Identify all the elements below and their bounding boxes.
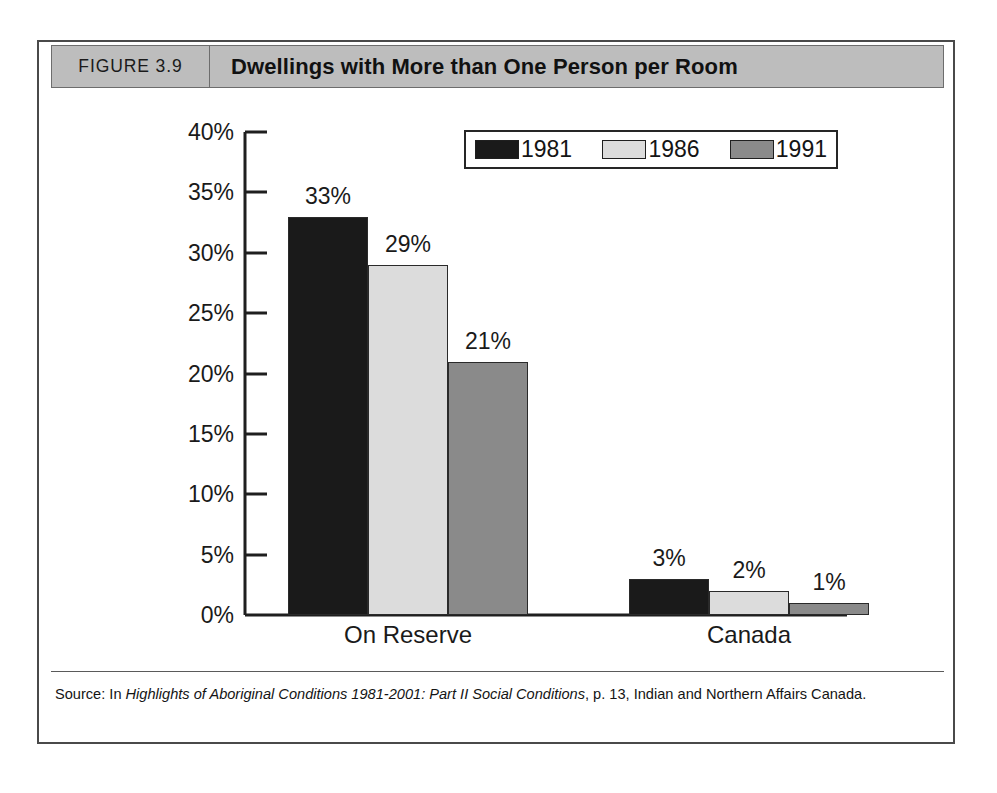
legend-swatch-1981	[475, 140, 519, 159]
figure-number-cell: FIGURE 3.9	[52, 46, 210, 87]
page-title: Dwellings with More than One Person per …	[231, 54, 738, 80]
bar-canada-1986	[709, 591, 789, 615]
chart-bars: 33% 29% 21% 3% 2% 1% On Reserve Canada	[37, 88, 955, 648]
figure-number-label: FIGURE 3.9	[78, 56, 182, 77]
legend-item-1986: 1986	[602, 138, 699, 161]
source-prefix: Source: In	[55, 686, 126, 702]
bar-value-canada-1986: 2%	[709, 557, 789, 584]
bar-onreserve-1981	[288, 217, 368, 615]
legend-label-1981: 1981	[521, 138, 572, 161]
bar-value-canada-1981: 3%	[629, 545, 709, 572]
source-suffix: , p. 13, Indian and Northern Affairs Can…	[585, 686, 866, 702]
legend-label-1991: 1991	[776, 138, 827, 161]
chart-legend: 1981 1986 1991	[464, 130, 838, 169]
figure-header: FIGURE 3.9 Dwellings with More than One …	[51, 45, 944, 88]
legend-swatch-1986	[602, 140, 646, 159]
category-label-canada: Canada	[629, 621, 869, 649]
bar-onreserve-1991	[448, 362, 528, 615]
legend-item-1991: 1991	[730, 138, 827, 161]
legend-swatch-1991	[730, 140, 774, 159]
bar-value-onreserve-1991: 21%	[448, 328, 528, 355]
figure-title-cell: Dwellings with More than One Person per …	[210, 46, 943, 87]
source-title: Highlights of Aboriginal Conditions 1981…	[126, 686, 585, 702]
source-divider	[51, 671, 944, 672]
bar-canada-1981	[629, 579, 709, 615]
bar-value-canada-1991: 1%	[789, 569, 869, 596]
source-note: Source: In Highlights of Aboriginal Cond…	[55, 684, 935, 705]
chart-plot-area: 40% 35% 30% 25% 20% 15% 10% 5% 0% 33% 29…	[37, 88, 955, 648]
legend-item-1981: 1981	[475, 138, 572, 161]
bar-value-onreserve-1981: 33%	[288, 183, 368, 210]
bar-canada-1991	[789, 603, 869, 615]
category-label-on-reserve: On Reserve	[288, 621, 528, 649]
bar-onreserve-1986	[368, 265, 448, 615]
bar-value-onreserve-1986: 29%	[368, 231, 448, 258]
legend-label-1986: 1986	[648, 138, 699, 161]
